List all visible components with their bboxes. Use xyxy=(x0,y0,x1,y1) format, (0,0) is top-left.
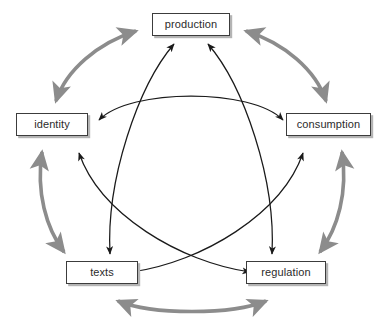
outer-arrow-texts-regulation xyxy=(118,301,266,312)
inner-arrow-production-regulation xyxy=(208,44,272,254)
node-label-texts: texts xyxy=(90,267,114,278)
outer-arrow-consumption-regulation xyxy=(320,152,344,252)
node-label-consumption: consumption xyxy=(297,119,360,130)
node-label-identity: identity xyxy=(34,119,70,130)
node-label-production: production xyxy=(165,19,217,30)
inner-arrow-production-texts xyxy=(110,44,174,254)
node-texts[interactable]: texts xyxy=(66,261,138,284)
inner-arrow-group xyxy=(79,44,303,272)
node-consumption[interactable]: consumption xyxy=(286,113,371,136)
node-label-regulation: regulation xyxy=(261,267,310,278)
inner-arrow-texts-consumption xyxy=(132,153,303,272)
node-regulation[interactable]: regulation xyxy=(246,261,326,284)
outer-arrow-identity-production xyxy=(56,31,136,101)
inner-arrow-identity-consumption xyxy=(99,96,283,120)
outer-arrow-identity-texts xyxy=(40,152,64,252)
inner-arrow-identity-regulation xyxy=(79,153,250,272)
circuit-of-culture-diagram: production identity consumption texts re… xyxy=(0,0,382,323)
outer-arrow-production-consumption xyxy=(246,31,326,101)
node-production[interactable]: production xyxy=(152,13,230,36)
node-identity[interactable]: identity xyxy=(16,113,88,136)
